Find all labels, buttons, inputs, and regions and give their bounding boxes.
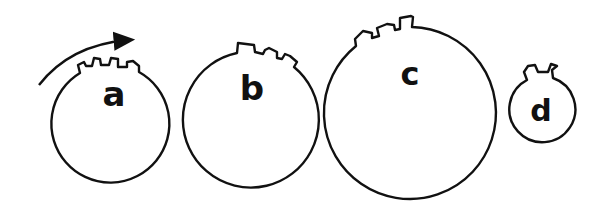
wheel-b-label: b: [240, 68, 264, 108]
gear-diagram: a b c d: [0, 0, 601, 219]
wheel-d-label: d: [530, 93, 551, 128]
wheel-c-label: c: [401, 55, 420, 93]
wheel-a-label: a: [103, 74, 126, 114]
wheel-b-outline: [183, 43, 319, 188]
wheel-b: b: [183, 43, 319, 188]
wheel-c-outline: [324, 16, 496, 199]
wheel-c: c: [324, 16, 496, 199]
wheel-a: a: [51, 58, 169, 183]
wheel-d: d: [509, 64, 575, 142]
